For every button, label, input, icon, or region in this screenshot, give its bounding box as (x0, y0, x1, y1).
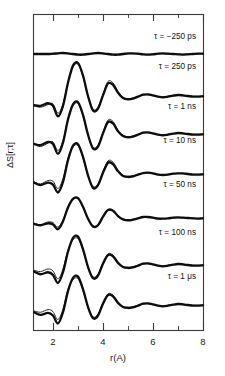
trace-group (34, 197, 203, 229)
trace-label-6: τ = 1 μs (0, 272, 196, 281)
trace-fit-curve (34, 198, 203, 227)
trace-label-5: τ = 100 ns (0, 228, 196, 237)
x-tick-label: 8 (193, 336, 213, 347)
x-tick-label: 6 (143, 336, 163, 347)
trace-label-1: τ = 250 ps (0, 62, 196, 71)
x-tick-label: 2 (43, 336, 63, 347)
figure-panel: ΔS[r;τ] r(A) 2468 τ = −250 psτ = 250 psτ… (0, 0, 225, 376)
trace-data-curve (34, 53, 203, 55)
trace-group (34, 53, 203, 55)
trace-label-3: τ = 10 ns (0, 136, 196, 145)
x-tick-label: 4 (93, 336, 113, 347)
x-axis-label: r(A) (33, 352, 203, 363)
trace-label-0: τ = −250 ps (0, 32, 196, 41)
trace-label-4: τ = 50 ns (0, 180, 196, 189)
trace-fit-curve (34, 278, 203, 320)
trace-data-curve (34, 197, 203, 229)
trace-label-2: τ = 1 ns (0, 102, 196, 111)
